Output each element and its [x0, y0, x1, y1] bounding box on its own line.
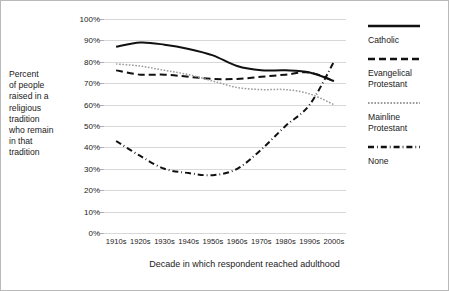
y-tick-label: 30%: [84, 164, 100, 173]
plot-area: 0%10%20%30%40%50%60%70%80%90%100%: [104, 19, 346, 233]
y-tick-label: 10%: [84, 207, 100, 216]
legend-entry[interactable]: Catholic: [368, 17, 444, 45]
series-lines: [104, 19, 346, 233]
x-tick-label: 1950s: [203, 237, 224, 246]
y-tick-label: 100%: [80, 15, 100, 24]
y-tick-label: 20%: [84, 186, 100, 195]
y-tick-label: 90%: [84, 36, 100, 45]
x-tick-label: 1990s: [299, 237, 320, 246]
x-axis-ticks: 1910s1920s1930s1940s1950s1960s1970s1980s…: [104, 237, 346, 251]
y-tick-mark: [100, 233, 104, 234]
x-axis-label-text: Decade in which respondent reached adult…: [109, 259, 340, 269]
legend-swatch-solid-icon: [368, 22, 420, 30]
x-tick-label: 1970s: [251, 237, 272, 246]
legend-label: Evangelical Protestant: [368, 68, 444, 89]
series-line: [116, 64, 334, 105]
legend-label: None: [368, 156, 444, 166]
y-tick-label: 40%: [84, 143, 100, 152]
legend-swatch-dashed-icon: [368, 55, 420, 63]
x-tick-label: 2000s: [324, 237, 345, 246]
legend-entry[interactable]: Evangelical Protestant: [368, 50, 444, 89]
legend-entry[interactable]: Mainline Protestant: [368, 94, 444, 133]
legend-swatch-dotted-icon: [368, 99, 420, 107]
y-tick-label: 70%: [84, 79, 100, 88]
legend-swatch-dashdot-icon: [368, 143, 420, 151]
y-tick-label: 50%: [84, 122, 100, 131]
legend-label: Catholic: [368, 35, 444, 45]
chart-legend: CatholicEvangelical ProtestantMainline P…: [368, 17, 444, 171]
x-tick-label: 1930s: [154, 237, 175, 246]
series-line: [116, 62, 334, 176]
x-tick-label: 1980s: [275, 237, 296, 246]
legend-entry[interactable]: None: [368, 138, 444, 166]
x-tick-label: 1960s: [227, 237, 248, 246]
x-tick-label: 1940s: [178, 237, 199, 246]
x-tick-label: 1910s: [106, 237, 127, 246]
chart-figure: Percent of people raised in a religious …: [0, 0, 449, 291]
x-tick-label: 1920s: [130, 237, 151, 246]
y-tick-label: 80%: [84, 57, 100, 66]
x-axis-label: Decade in which respondent reached adult…: [1, 259, 448, 269]
y-tick-label: 0%: [88, 229, 100, 238]
y-tick-label: 60%: [84, 100, 100, 109]
gridline: [104, 233, 346, 234]
y-axis-label: Percent of people raised in a religious …: [9, 69, 85, 159]
legend-label: Mainline Protestant: [368, 112, 444, 133]
